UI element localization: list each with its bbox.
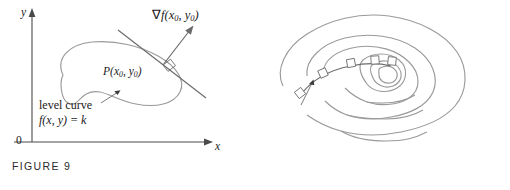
tangent-line bbox=[118, 30, 206, 98]
right-angle-marker-icon bbox=[318, 68, 329, 79]
right-angle-marker-icon bbox=[371, 56, 380, 65]
contour-path-inner-3 bbox=[379, 66, 397, 83]
right-angle-marker-icon bbox=[294, 87, 305, 98]
figure-9-caption: FIGURE 9 bbox=[12, 160, 71, 172]
right-angle-marker-icon bbox=[388, 57, 397, 66]
arrow-right-icon bbox=[204, 139, 213, 146]
figure-9-panel: y x 0 ∇f(x0, y0) P(x0, y0) level curve f… bbox=[0, 0, 255, 190]
x-axis-label: x bbox=[215, 140, 220, 153]
gradient-vector-arrow-icon bbox=[185, 26, 193, 35]
arrow-up-icon bbox=[29, 8, 36, 17]
level-curve-equation-label: f(x, y) = k bbox=[39, 114, 86, 128]
contour-leader-300-left bbox=[367, 102, 383, 103]
point-p-label: P(x0, y0) bbox=[103, 65, 142, 79]
contour-path-300 bbox=[323, 46, 418, 104]
figure-10-graphic bbox=[255, 0, 510, 190]
y-axis-label: y bbox=[21, 6, 26, 19]
gradient-vector-label: ∇f(x0, y0) bbox=[152, 8, 199, 24]
origin-label: 0 bbox=[16, 134, 22, 147]
contour-leader-300-right bbox=[383, 95, 415, 103]
contour-path-200-tail bbox=[325, 101, 347, 115]
contour-leader-200-right bbox=[386, 110, 423, 119]
gradient-vector-line bbox=[163, 30, 190, 65]
contour-path-100 bbox=[280, 15, 465, 135]
level-curve-label: level curve bbox=[39, 98, 92, 113]
leader-arrow-icon bbox=[114, 90, 120, 95]
contour-path-300-tail bbox=[345, 88, 367, 102]
figure-pair-page: y x 0 ∇f(x0, y0) P(x0, y0) level curve f… bbox=[0, 0, 510, 190]
right-angle-marker-icon bbox=[346, 58, 355, 67]
contour-path-200 bbox=[307, 35, 435, 119]
figure-10-panel: curve of steepest ascent 300 200 100 FIG… bbox=[255, 0, 510, 190]
contour-path-100-tail bbox=[307, 115, 341, 131]
